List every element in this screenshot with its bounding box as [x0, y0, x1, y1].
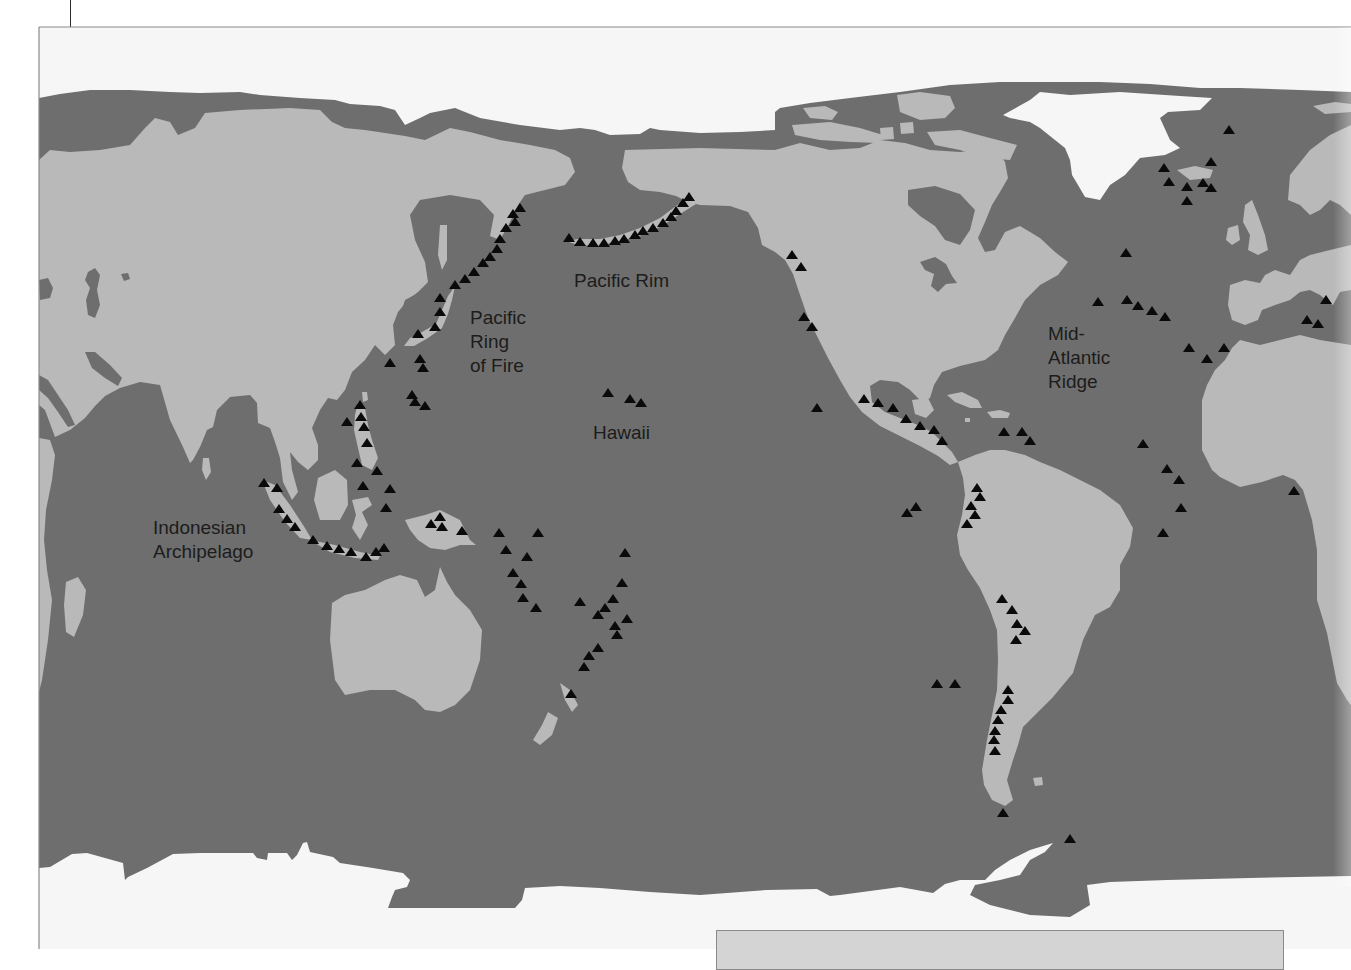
legend-box	[716, 930, 1284, 970]
landmass	[880, 127, 894, 140]
map-content: Pacific Rim Pacific Ring of Fire Hawaii …	[39, 27, 1351, 949]
label-pacific-rim: Pacific Rim	[574, 270, 669, 291]
landmass	[314, 470, 348, 520]
landmass	[900, 122, 914, 134]
landmass	[965, 418, 970, 422]
label-hawaii: Hawaii	[593, 422, 650, 443]
